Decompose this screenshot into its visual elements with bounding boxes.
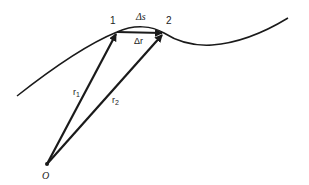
r1-label: r1 [73, 87, 80, 98]
origin-label: O [42, 170, 49, 181]
trajectory-curve [17, 18, 288, 96]
origin-point [45, 162, 49, 166]
r2-label: r2 [112, 95, 119, 106]
displacement-diagram: 1 2 Δs Δr r1 r2 O [0, 0, 309, 185]
arc-length-label: Δs [135, 11, 146, 22]
displacement-vector-dr [117, 32, 162, 33]
r1-sub: 1 [76, 91, 80, 98]
point1-label: 1 [110, 15, 116, 26]
r2-sub: 2 [115, 99, 119, 106]
point2-label: 2 [166, 15, 172, 26]
chord-label: Δr [134, 36, 143, 46]
